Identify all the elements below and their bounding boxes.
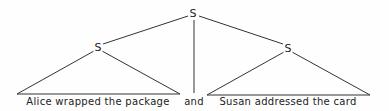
- node-root-s: S: [189, 8, 198, 19]
- leaf-conjunction: and: [184, 97, 204, 107]
- node-right-s: S: [284, 43, 293, 54]
- triangle-left: [17, 51, 180, 94]
- leaf-right-sentence: Susan addressed the card: [219, 97, 356, 107]
- edge-root-left: [103, 16, 188, 44]
- syntax-tree-diagram: S S S Alice wrapped the package and Susa…: [0, 0, 389, 111]
- node-left-s: S: [94, 42, 103, 53]
- leaf-left-sentence: Alice wrapped the package: [26, 97, 169, 107]
- triangle-right: [207, 52, 370, 95]
- edge-root-right: [199, 16, 283, 44]
